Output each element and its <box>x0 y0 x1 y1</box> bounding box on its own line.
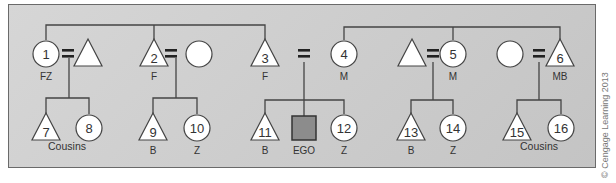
kin-node-9: 9B <box>139 113 167 156</box>
kin-node-6: 6MB <box>546 39 574 82</box>
equals-sign-icon <box>298 49 310 58</box>
copyright-credit: © Cengage Learning 2013 <box>600 72 610 178</box>
equals-sign-icon <box>62 49 74 58</box>
female-circle-icon <box>497 41 523 67</box>
node-number: 15 <box>510 125 524 140</box>
kinship-diagram: 1FZ2F3F4M5M6MB789B10Z11BEGO12Z13B14Z1516… <box>0 0 616 183</box>
cousins-label: Cousins <box>48 140 86 152</box>
kin-term-label: B <box>262 145 269 156</box>
kin-term-label: EGO <box>293 145 315 156</box>
kin-term-label: B <box>408 145 415 156</box>
kin-node-15: 15 <box>503 113 531 140</box>
kin-node-3: 3F <box>251 39 279 82</box>
kin-node-ego: EGO <box>292 116 316 156</box>
kin-term-label: Z <box>341 145 347 156</box>
node-number: 6 <box>556 51 563 66</box>
node-number: 3 <box>261 51 268 66</box>
kin-node-12: 12Z <box>331 115 357 156</box>
node-number: 9 <box>149 125 156 140</box>
equals-sign-icon <box>427 49 439 58</box>
kin-node-2w <box>186 41 212 67</box>
kin-term-label: FZ <box>40 71 52 82</box>
kin-node-7: 7 <box>32 113 60 140</box>
equals-sign-icon <box>533 49 545 58</box>
marriage-signs <box>62 49 545 58</box>
kin-node-4: 4M <box>331 41 357 82</box>
node-number: 1 <box>42 47 49 62</box>
equals-sign-icon <box>165 49 177 58</box>
cousins-label: Cousins <box>520 140 558 152</box>
kin-term-label: B <box>150 145 157 156</box>
kin-term-label: F <box>151 71 157 82</box>
ego-square-icon <box>292 116 316 140</box>
kin-node-5h <box>398 39 426 66</box>
male-triangle-icon <box>74 39 102 66</box>
kin-term-label: Z <box>194 145 200 156</box>
kin-term-label: MB <box>553 71 568 82</box>
kin-node-8: 8 <box>76 115 102 141</box>
node-number: 2 <box>150 51 157 66</box>
node-number: 5 <box>449 47 456 62</box>
node-number: 14 <box>446 121 460 136</box>
kin-node-11: 11B <box>251 113 279 156</box>
node-number: 4 <box>340 47 347 62</box>
female-circle-icon <box>186 41 212 67</box>
kin-term-label: M <box>340 71 348 82</box>
node-number: 10 <box>190 121 204 136</box>
kin-node-1h <box>74 39 102 66</box>
node-number: 16 <box>554 121 568 136</box>
node-number: 12 <box>337 121 351 136</box>
kin-node-16: 16 <box>548 115 574 141</box>
kin-node-13: 13B <box>397 113 425 156</box>
male-triangle-icon <box>398 39 426 66</box>
node-number: 8 <box>85 121 92 136</box>
kin-node-10: 10Z <box>184 115 210 156</box>
kin-node-5: 5M <box>440 41 466 82</box>
kin-term-label: Z <box>450 145 456 156</box>
kin-node-2: 2F <box>140 39 168 82</box>
kin-term-label: F <box>262 71 268 82</box>
node-number: 13 <box>404 125 418 140</box>
kin-node-1: 1FZ <box>33 41 59 82</box>
kin-node-14: 14Z <box>440 115 466 156</box>
node-number: 7 <box>42 125 49 140</box>
kin-term-label: M <box>449 71 457 82</box>
descent-lines <box>46 25 561 116</box>
node-number: 11 <box>258 125 272 140</box>
kin-node-6w <box>497 41 523 67</box>
